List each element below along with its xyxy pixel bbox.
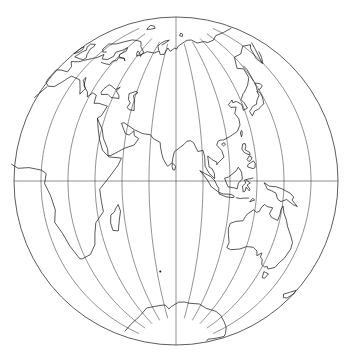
coastline-great-britain (75, 44, 96, 59)
coastline-timor-lesser-sunda (236, 198, 249, 199)
coastline-new-guinea (264, 183, 297, 207)
coastline-madagascar (111, 205, 121, 231)
world-map (0, 0, 349, 358)
island-markers (159, 271, 161, 273)
coastline-sulawesi (243, 178, 254, 192)
graticule (14, 17, 338, 345)
coastline-java (219, 192, 234, 197)
coastline-philippines-luzon (242, 144, 250, 156)
coastline-iceland-svalbard (147, 25, 155, 29)
coastline-arabia-asia (97, 43, 262, 179)
map-container (0, 0, 349, 358)
coastline-hainan (222, 143, 226, 146)
coastlines (11, 25, 309, 341)
coastline-borneo (225, 167, 243, 189)
coastline-taiwan (240, 130, 242, 137)
coastline-philippines-visayas (247, 156, 252, 162)
coastline-tasmania (262, 272, 268, 279)
coastline-africa (11, 86, 121, 258)
coastline-australia (227, 205, 293, 270)
coastline-nz-south (283, 290, 295, 298)
coastline-med-north (46, 48, 128, 119)
coastline-sri-lanka (172, 163, 176, 170)
coastline-timor (250, 198, 255, 202)
coastline-antarctica (125, 302, 226, 341)
coastline-severnaya-zemlya (180, 33, 183, 37)
kerguelen-island (159, 271, 161, 273)
